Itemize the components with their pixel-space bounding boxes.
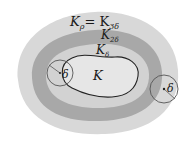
delta-center-right — [163, 88, 165, 90]
label-delta-right: δ — [167, 82, 174, 95]
nested-sets-diagram: Kρ= K3δ K2δ Kδ K δ δ — [0, 0, 190, 144]
label-k: K — [92, 68, 104, 83]
delta-center-left — [59, 72, 61, 74]
label-delta-left: δ — [62, 68, 69, 81]
